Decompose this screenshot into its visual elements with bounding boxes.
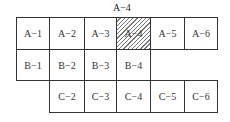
cell-a-2: A−2	[49, 17, 85, 50]
cell-c-6: C−6	[184, 80, 218, 113]
cell-b-2: B−2	[49, 49, 85, 81]
cell-a-5: A−5	[150, 17, 185, 50]
cell-a-3: A−3	[84, 17, 117, 50]
cell-c-3: C−3	[84, 80, 117, 113]
cell-a-4: A−4	[116, 17, 151, 50]
cell-b-3: B−3	[84, 49, 117, 81]
cell-a-6: A−6	[184, 17, 218, 50]
cell-c-4: C−4	[116, 80, 151, 113]
cell-c-5: C−5	[150, 80, 185, 113]
cell-a-1: A−1	[16, 17, 50, 50]
cell-b-4: B−4	[116, 49, 151, 81]
highlight-callout-label: A−4	[113, 2, 131, 13]
cell-b-1: B−1	[16, 49, 50, 81]
cell-c-2: C−2	[49, 80, 85, 113]
